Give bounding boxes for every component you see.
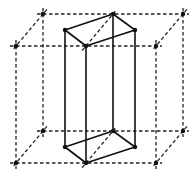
outer-vertex-dot — [14, 44, 18, 48]
cube-prism-diagram — [0, 0, 196, 177]
outer-vertex-dot — [41, 129, 45, 133]
outer-vertex-dot — [14, 161, 18, 165]
outer-vertex-dot — [181, 12, 185, 16]
inner-vertex-dot — [133, 145, 137, 149]
inner-vertex-dot — [84, 161, 88, 165]
inner-prism-edge — [113, 14, 135, 30]
outer-vertex-dot — [41, 12, 45, 16]
diagram-canvas — [0, 0, 196, 177]
inner-vertex-dot — [133, 28, 137, 32]
inner-vertex-dot — [111, 129, 115, 133]
inner-prism-edge — [65, 30, 86, 46]
inner-prism-edge — [86, 147, 135, 163]
inner-prism-edge — [86, 30, 135, 46]
inner-prism-edge — [65, 147, 86, 163]
inner-vertex-dot — [63, 28, 67, 32]
outer-vertex-dot — [154, 161, 158, 165]
inner-vertex-dot — [84, 44, 88, 48]
outer-vertex-dot — [181, 129, 185, 133]
inner-prism-edge — [113, 131, 135, 147]
inner-vertex-dot — [63, 145, 67, 149]
inner-vertex-dot — [111, 12, 115, 16]
outer-vertex-dot — [154, 44, 158, 48]
